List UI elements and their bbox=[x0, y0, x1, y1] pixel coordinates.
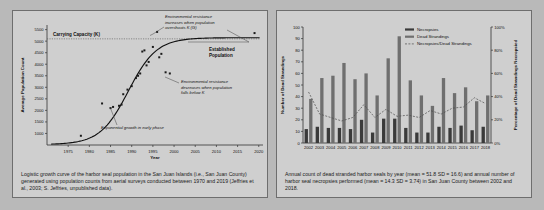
y2-tick-label: 0% bbox=[494, 141, 500, 146]
y-tick-label: 3000 bbox=[34, 85, 44, 90]
bar-dead-strandings bbox=[475, 101, 478, 143]
bar-necropsies bbox=[459, 126, 462, 143]
bar-necropsies bbox=[415, 133, 418, 143]
exponential-leader bbox=[110, 107, 117, 125]
established-population-label-line1: Established bbox=[209, 47, 235, 52]
data-point bbox=[143, 49, 145, 51]
data-point bbox=[148, 61, 150, 63]
bar-necropsies bbox=[382, 119, 385, 143]
y-tick-label: 80 bbox=[295, 48, 300, 53]
y-tick-label: 4500 bbox=[34, 50, 44, 55]
x-tick-label: 2013 bbox=[426, 145, 436, 150]
x-tick-label: 2002 bbox=[304, 145, 314, 150]
bar-dead-strandings bbox=[486, 95, 489, 143]
x-tick-label: 2006 bbox=[348, 145, 358, 150]
x-tick-label: 2008 bbox=[370, 145, 380, 150]
overshoot-annotation-line2: increases when population bbox=[165, 20, 215, 25]
legend-swatch-dead-strandings bbox=[405, 36, 414, 38]
y-tick-label: 90 bbox=[295, 36, 300, 41]
x-tick-label: 2009 bbox=[381, 145, 391, 150]
data-point bbox=[101, 102, 103, 104]
bar-dead-strandings bbox=[420, 95, 423, 143]
figure-left-caption: Logistic growth curve of the harbor seal… bbox=[21, 171, 259, 193]
bar-necropsies bbox=[371, 133, 374, 143]
bar-dead-strandings bbox=[398, 36, 401, 143]
bar-necropsies bbox=[448, 128, 451, 143]
bar-necropsies bbox=[360, 120, 363, 143]
data-point bbox=[254, 32, 256, 34]
bar-necropsies bbox=[426, 133, 429, 143]
data-point bbox=[141, 51, 143, 53]
x-tick-label: 2020 bbox=[254, 149, 264, 154]
y-tick-label: 5000 bbox=[34, 39, 44, 44]
y2-tick-label: 80% bbox=[494, 48, 503, 53]
established-population-label-line2: Population bbox=[209, 53, 233, 58]
bar-dead-strandings bbox=[342, 63, 345, 143]
x-tick-label: 2000 bbox=[170, 149, 180, 154]
data-point bbox=[126, 89, 128, 91]
y-tick-label: 30 bbox=[295, 106, 300, 111]
x-tick-label: 1985 bbox=[106, 149, 116, 154]
bar-necropsies bbox=[338, 128, 341, 143]
bar-necropsies bbox=[327, 128, 330, 143]
y2-tick-label: 100% bbox=[494, 25, 505, 30]
x-tick-label: 1980 bbox=[85, 149, 95, 154]
data-point bbox=[135, 77, 137, 79]
carrying-capacity-label: Carrying Capacity (K) bbox=[53, 32, 100, 37]
bar-necropsies bbox=[404, 128, 407, 143]
bar-dead-strandings bbox=[320, 78, 323, 143]
figure-panel-left: 1000150020002500300035004000450050005500… bbox=[12, 10, 268, 198]
bar-necropsies bbox=[305, 129, 308, 143]
legend-label-ratio: Necropsies/Dead Strandings bbox=[417, 41, 472, 46]
y-tick-label: 2500 bbox=[34, 96, 44, 101]
x-tick-label: 1995 bbox=[148, 149, 158, 154]
bar-necropsies bbox=[393, 119, 396, 143]
y-tick-label: 2000 bbox=[34, 108, 44, 113]
data-point bbox=[160, 53, 162, 55]
undershoot-annotation-line2: decreases when population bbox=[181, 85, 233, 90]
bar-dead-strandings bbox=[364, 73, 367, 143]
y2-tick-label: 20% bbox=[494, 117, 503, 122]
ratio-dashed-line bbox=[309, 92, 486, 121]
data-point bbox=[139, 72, 141, 74]
x-tick-label: 2004 bbox=[326, 145, 336, 150]
figure-panel-right: 01020304050607080901000%20%40%60%80%100%… bbox=[276, 10, 532, 198]
legend-label-necropsies: Necropsies bbox=[417, 27, 439, 32]
legend-swatch-necropsies bbox=[405, 28, 414, 30]
bar-dead-strandings bbox=[387, 58, 390, 143]
x-tick-label: 2017 bbox=[470, 145, 480, 150]
y2-axis-title: Percentage of Dead Strandings Necropsied bbox=[513, 40, 518, 131]
y-axis-title: Number of Dead Strandings bbox=[280, 55, 285, 114]
overshoot-leader-2 bbox=[227, 30, 249, 42]
exponential-growth-annotation: Exponential growth in early phase bbox=[101, 125, 165, 130]
bar-dead-strandings bbox=[409, 80, 412, 143]
y-tick-label: 10 bbox=[295, 129, 300, 134]
x-tick-label: 2007 bbox=[359, 145, 369, 150]
x-tick-label: 1975 bbox=[64, 149, 74, 154]
x-tick-label: 2010 bbox=[392, 145, 402, 150]
overshoot-annotation-line3: overshoots K (G) bbox=[165, 25, 197, 30]
logistic-growth-chart: 1000150020002500300035004000450050005500… bbox=[13, 11, 269, 171]
data-point bbox=[122, 93, 124, 95]
y-tick-label: 0 bbox=[298, 141, 301, 146]
data-point bbox=[169, 72, 171, 74]
undershoot-annotation-line3: falls below K bbox=[181, 90, 205, 95]
data-point bbox=[118, 105, 120, 107]
x-tick-label: 2011 bbox=[404, 145, 414, 150]
x-tick-label: 2010 bbox=[212, 149, 222, 154]
x-tick-labels: 2002200320042005200620072008200920102011… bbox=[304, 145, 491, 150]
x-tick-label: 1990 bbox=[127, 149, 137, 154]
x-axis-title: Year bbox=[150, 155, 160, 160]
x-tick-label: 2012 bbox=[415, 145, 425, 150]
data-point bbox=[121, 104, 123, 106]
bar-dead-strandings bbox=[309, 99, 312, 143]
y-tick-label: 1000 bbox=[34, 131, 44, 136]
strandings-necropsies-chart: 01020304050607080901000%20%40%60%80%100%… bbox=[277, 11, 533, 171]
x-tick-label: 2015 bbox=[233, 149, 243, 154]
y-tick-label: 5500 bbox=[34, 27, 44, 32]
x-tick-label: 2018 bbox=[481, 145, 491, 150]
overshoot-annotation-line1: Environmental resistance bbox=[165, 14, 213, 19]
x-tick-label: 2003 bbox=[315, 145, 325, 150]
bar-dead-strandings bbox=[331, 76, 334, 143]
y-tick-label: 100 bbox=[293, 25, 301, 30]
